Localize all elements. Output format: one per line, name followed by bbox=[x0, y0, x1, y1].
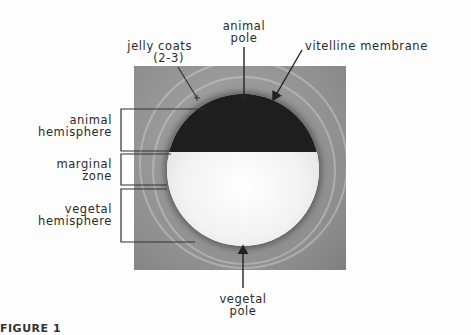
label-vitelline-membrane: vitelline membrane bbox=[305, 40, 428, 52]
jelly-coats-pointer bbox=[178, 67, 197, 98]
marginal-zone-bracket bbox=[121, 154, 171, 185]
label-vegetal-hemisphere: vegetal hemisphere bbox=[10, 203, 112, 227]
label-vegetal-pole: vegetal pole bbox=[208, 293, 278, 317]
label-animal-pole: animal pole bbox=[214, 20, 274, 44]
vegetal-hemisphere-bracket bbox=[121, 189, 195, 242]
label-animal-hemisphere: animal hemisphere bbox=[10, 114, 112, 138]
figure-caption-partial: FIGURE 1 bbox=[0, 322, 61, 335]
label-marginal-zone: marginal zone bbox=[10, 158, 112, 182]
animal-hemisphere-bracket bbox=[121, 109, 205, 151]
vitelline-membrane-arrow bbox=[273, 50, 302, 100]
label-jelly-coats: jelly coats (2-3) bbox=[100, 40, 192, 64]
